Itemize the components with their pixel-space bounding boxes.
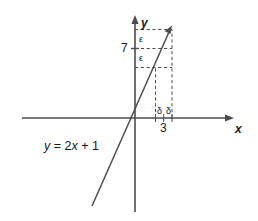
coordinate-plot xyxy=(0,0,258,221)
delta-left-label: δ xyxy=(157,107,162,116)
y-tick-label-7: 7 xyxy=(121,42,128,54)
x-tick-label-3: 3 xyxy=(160,122,167,134)
equation-plus: + xyxy=(81,139,88,153)
x-axis-arrowhead xyxy=(225,114,234,121)
equation-equals-sign: = xyxy=(54,139,61,153)
epsilon-lower-label: ε xyxy=(139,54,143,63)
y-axis-arrowhead xyxy=(131,15,138,24)
delta-right-label: δ xyxy=(166,107,171,116)
y-axis-label: y xyxy=(141,17,148,29)
equation-label: y = 2x + 1 xyxy=(44,140,99,153)
x-axis-label: x xyxy=(235,123,242,135)
function-line-segment xyxy=(92,32,169,206)
equation-constant: 1 xyxy=(92,139,99,153)
figure-canvas: y x 7 3 ε ε δ δ y = 2x + 1 xyxy=(0,0,258,221)
x-axis xyxy=(22,114,234,121)
epsilon-upper-label: ε xyxy=(139,35,143,44)
